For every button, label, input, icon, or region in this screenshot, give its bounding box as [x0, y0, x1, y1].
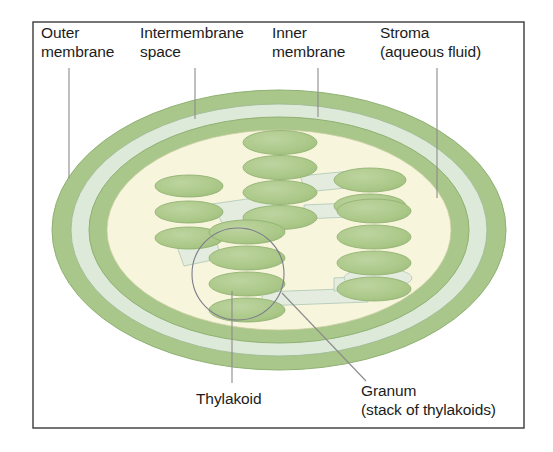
thylakoid-disc	[337, 277, 411, 301]
thylakoid-disc	[209, 246, 285, 270]
thylakoid-disc	[155, 175, 223, 197]
chloroplast-diagram-svg: Outer membrane Intermembrane space Inner…	[0, 0, 553, 452]
granum-left	[155, 175, 223, 249]
label-outer-membrane-line1: Outer	[41, 24, 79, 41]
label-granum-line2: (stack of thylakoids)	[361, 401, 496, 418]
thylakoid-disc	[337, 251, 411, 275]
label-thylakoid: Thylakoid	[196, 390, 261, 407]
label-stroma-line2: (aqueous fluid)	[380, 43, 481, 60]
label-granum-line1: Granum	[361, 382, 416, 399]
thylakoid-disc	[337, 225, 411, 249]
label-outer-membrane-line2: membrane	[41, 43, 114, 60]
label-inner-membrane-line1: Inner	[272, 24, 307, 41]
label-intermembrane-space-line2: space	[140, 43, 181, 60]
chloroplast-diagram-figure: Outer membrane Intermembrane space Inner…	[0, 0, 553, 452]
thylakoid-disc	[209, 272, 285, 296]
label-inner-membrane-line2: membrane	[272, 43, 345, 60]
label-stroma-line1: Stroma	[380, 24, 430, 41]
thylakoid-disc	[334, 168, 406, 192]
thylakoid-disc	[243, 156, 317, 180]
thylakoid-disc	[243, 131, 317, 155]
thylakoid-disc	[243, 181, 317, 205]
thylakoid-disc	[209, 298, 285, 322]
thylakoid-disc	[337, 199, 411, 223]
label-intermembrane-space-line1: Intermembrane	[140, 24, 244, 41]
thylakoid-disc	[155, 201, 223, 223]
